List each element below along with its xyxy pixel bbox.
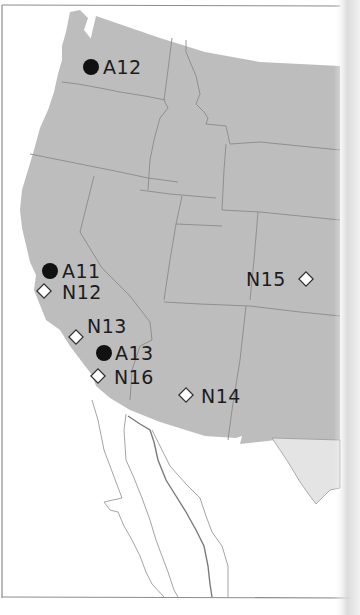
page-gutter-shadow — [334, 0, 360, 615]
marker-label: N15 — [246, 268, 286, 290]
filled-circle-icon — [42, 263, 58, 279]
marker-A13[interactable]: A13 — [96, 342, 154, 364]
western-us-landmass — [20, 10, 340, 472]
marker-A11[interactable]: A11 — [42, 260, 101, 282]
marker-label: N14 — [201, 385, 241, 407]
marker-label: A12 — [103, 56, 142, 78]
marker-A12[interactable]: A12 — [83, 56, 142, 78]
marker-label: N13 — [87, 315, 127, 337]
gulf-coast — [152, 430, 228, 597]
marker-label: N16 — [114, 366, 154, 388]
filled-circle-icon — [96, 345, 112, 361]
marker-label: N12 — [62, 281, 102, 303]
baja-east-coast — [124, 414, 178, 597]
map-figure: A12 A11 N12 N13 A13 N16 N14 N15 — [0, 0, 360, 615]
filled-circle-icon — [83, 59, 99, 75]
marker-label: A13 — [115, 342, 154, 364]
map-frame-top — [2, 5, 340, 6]
marker-label: A11 — [62, 260, 101, 282]
mainland-mexico-coast — [128, 416, 212, 597]
baja-west-coast — [92, 400, 164, 597]
mexico-area — [272, 438, 340, 504]
map-frame-bottom — [2, 597, 350, 598]
